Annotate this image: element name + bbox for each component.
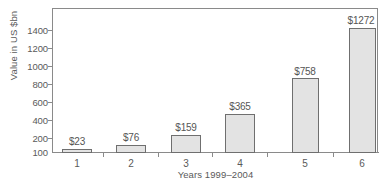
x-axis-category-label: 1 <box>74 158 80 169</box>
bar-value-label: $159 <box>175 122 196 133</box>
x-axis-category-label: 5 <box>302 158 308 169</box>
bar <box>349 28 376 154</box>
bar-value-label: $76 <box>123 132 139 143</box>
bar <box>171 135 201 154</box>
x-axis-category-label: 6 <box>359 158 365 169</box>
bar <box>292 78 319 153</box>
bar-value-label: $365 <box>229 101 250 112</box>
bar <box>62 149 92 154</box>
bar-value-label: $1272 <box>348 15 375 26</box>
bar <box>225 114 255 154</box>
x-axis-category-label: 4 <box>237 158 243 169</box>
bars-layer: $23 1 $76 2 $159 3 $365 4 $758 5 $1272 6 <box>0 0 390 182</box>
bar-chart: Value in US $bn 100 200 400 600 800 1000… <box>0 0 390 182</box>
x-axis-title: Years 1999–2004 <box>52 169 379 180</box>
x-axis-category-label: 2 <box>128 158 134 169</box>
x-axis-category-label: 3 <box>183 158 189 169</box>
bar-value-label: $23 <box>69 136 85 147</box>
bar-value-label: $758 <box>294 66 315 77</box>
bar <box>116 145 146 154</box>
